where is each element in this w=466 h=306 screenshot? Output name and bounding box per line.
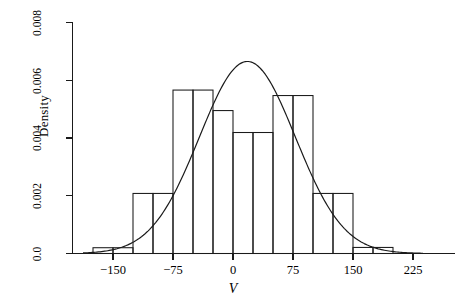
y-tick-label-0.0: 0.0 bbox=[31, 231, 43, 277]
histogram-density-chart bbox=[0, 0, 466, 306]
x-tick-label-0: 0 bbox=[203, 263, 263, 278]
x-tick-label--150: −150 bbox=[83, 263, 143, 278]
x-tick-label-75: 75 bbox=[263, 263, 323, 278]
x-tick-label-150: 150 bbox=[323, 263, 383, 278]
x-tick-label--75: −75 bbox=[143, 263, 203, 278]
x-axis-title: V bbox=[0, 281, 466, 297]
y-tick-label-0.008: 0.008 bbox=[31, 0, 43, 46]
y-axis-title: Density bbox=[36, 56, 52, 176]
x-tick-label-225: 225 bbox=[383, 263, 443, 278]
y-tick-label-0.002: 0.002 bbox=[31, 173, 43, 219]
